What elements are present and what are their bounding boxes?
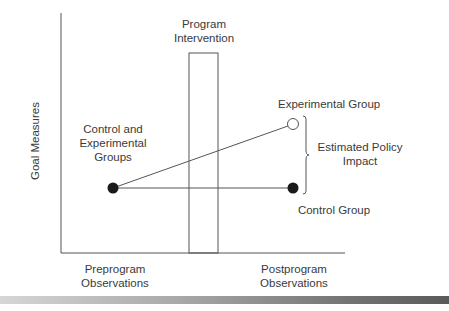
gradient-divider-bar bbox=[0, 296, 449, 304]
start-label: Control and Experimental Groups bbox=[68, 122, 158, 164]
y-axis-label: Goal Measures bbox=[29, 96, 41, 186]
program-intervention-box bbox=[189, 53, 218, 253]
experimental-group-point bbox=[288, 119, 299, 130]
intervention-label-line2: Intervention bbox=[160, 31, 248, 45]
baseline-point bbox=[108, 183, 119, 194]
impact-brace bbox=[303, 116, 309, 194]
intervention-label-line1: Program bbox=[160, 17, 248, 31]
impact-label-line1: Estimated Policy bbox=[310, 140, 410, 154]
start-label-line3: Groups bbox=[68, 150, 158, 164]
preprogram-label-line2: Observations bbox=[70, 276, 160, 290]
start-label-line2: Experimental bbox=[68, 136, 158, 150]
impact-label: Estimated Policy Impact bbox=[310, 140, 410, 168]
postprogram-label-line2: Observations bbox=[249, 276, 339, 290]
preprogram-label-line1: Preprogram bbox=[70, 262, 160, 276]
start-label-line1: Control and bbox=[68, 122, 158, 136]
experimental-group-label: Experimental Group bbox=[278, 97, 378, 111]
postprogram-label: Postprogram Observations bbox=[249, 262, 339, 290]
impact-label-line2: Impact bbox=[310, 154, 410, 168]
control-group-point bbox=[288, 183, 299, 194]
postprogram-label-line1: Postprogram bbox=[249, 262, 339, 276]
control-group-label: Control Group bbox=[290, 203, 378, 217]
preprogram-label: Preprogram Observations bbox=[70, 262, 160, 290]
intervention-label: Program Intervention bbox=[160, 17, 248, 45]
